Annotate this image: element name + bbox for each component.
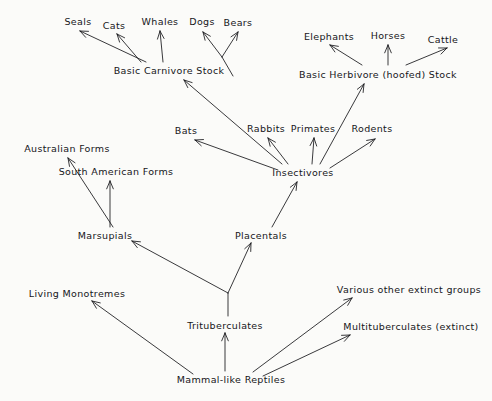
node-south-american-forms: South American Forms: [59, 166, 174, 177]
diagram-canvas: SealsCatsWhalesDogsBearsElephantsHorsesC…: [0, 0, 492, 401]
node-label-layer: SealsCatsWhalesDogsBearsElephantsHorsesC…: [0, 0, 492, 401]
node-whales: Whales: [142, 16, 179, 27]
node-multituberculates: Multituberculates (extinct): [343, 321, 478, 332]
node-rodents: Rodents: [351, 123, 392, 134]
node-horses: Horses: [371, 30, 406, 41]
node-basic-carnivore: Basic Carnivore Stock: [114, 65, 225, 76]
node-various-extinct: Various other extinct groups: [337, 284, 481, 295]
node-cats: Cats: [103, 20, 126, 31]
node-placentals: Placentals: [235, 230, 287, 241]
node-trituberculates: Trituberculates: [187, 320, 263, 331]
node-cattle: Cattle: [428, 34, 459, 45]
node-dogs: Dogs: [189, 16, 215, 27]
node-marsupials: Marsupials: [78, 230, 132, 241]
node-mammal-like-reptiles: Mammal-like Reptiles: [177, 374, 286, 385]
node-bears: Bears: [224, 17, 253, 28]
node-living-monotremes: Living Monotremes: [29, 288, 125, 299]
node-seals: Seals: [64, 16, 91, 27]
node-bats: Bats: [175, 125, 197, 136]
node-rabbits: Rabbits: [247, 123, 285, 134]
node-elephants: Elephants: [304, 31, 354, 42]
node-basic-herbivore: Basic Herbivore (hoofed) Stock: [299, 69, 457, 80]
node-primates: Primates: [291, 123, 336, 134]
node-insectivores: Insectivores: [272, 167, 333, 178]
node-australian-forms: Australian Forms: [24, 143, 110, 154]
